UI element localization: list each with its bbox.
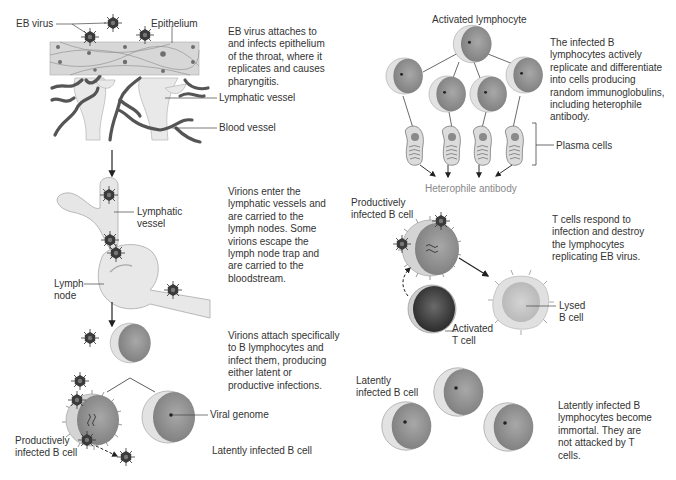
- label-lymphatic-vessel-2: Lymphatic vessel: [137, 206, 187, 230]
- label-lymph-node: Lymph node: [54, 278, 84, 302]
- label-epithelium: Epithelium: [151, 18, 198, 30]
- label-activated-t-cell: Activated T cell: [452, 323, 492, 347]
- label-viral-genome: Viral genome: [210, 409, 269, 421]
- label-productively-infected-b-cell-2: Productively infected B cell: [351, 197, 421, 221]
- step4-description: The infected B lymphocytes actively repl…: [550, 37, 668, 124]
- label-blood-vessel: Blood vessel: [219, 122, 276, 134]
- step3-description: Virions attach specifically to B lymphoc…: [228, 330, 340, 392]
- step5-description: T cells respond to infection and destroy…: [552, 214, 652, 264]
- label-lymphatic-vessel: Lymphatic vessel: [219, 92, 295, 104]
- t-cell-panel: [393, 212, 556, 335]
- label-activated-lymphocyte: Activated lymphocyte: [432, 14, 527, 26]
- step2-description: Virions enter the lymphatic vessels and …: [228, 186, 326, 285]
- label-eb-virus: EB virus: [16, 18, 53, 30]
- step1-description: EB virus attaches to and infects epithel…: [228, 26, 328, 88]
- label-latently-infected-b-cell: Latently infected B cell: [212, 445, 312, 457]
- label-heterophile-antibody: Heterophile antibody: [425, 183, 517, 195]
- epithelium-panel: [50, 14, 217, 142]
- label-productively-infected-b-cell: Productively infected B cell: [15, 435, 80, 459]
- step6-description: Latently infected B lymphocytes become i…: [558, 400, 654, 462]
- replication-panel: [386, 25, 554, 177]
- label-plasma-cells: Plasma cells: [556, 140, 612, 152]
- infection-panel: [62, 323, 208, 466]
- label-latently-infected-b-cell-2: Latently infected B cell: [356, 375, 426, 399]
- label-lysed-b-cell: Lysed B cell: [559, 300, 589, 324]
